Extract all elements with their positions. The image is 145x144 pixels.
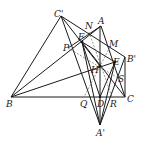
label-A: A	[97, 16, 105, 26]
label-E: E	[112, 57, 120, 67]
label-B': B'	[126, 54, 136, 64]
segment-AB	[11, 26, 101, 97]
label-S: S	[118, 74, 124, 84]
label-N: N	[84, 21, 94, 31]
segment-C'B	[11, 16, 61, 97]
label-H: H	[90, 65, 99, 75]
label-R: R	[109, 99, 117, 109]
label-D: D	[96, 99, 104, 109]
point-D	[99, 96, 101, 98]
label-Q: Q	[80, 99, 88, 109]
label-C: C	[127, 94, 134, 104]
solid-lines	[11, 16, 125, 125]
label-F: F	[77, 32, 85, 42]
label-A': A'	[95, 128, 105, 138]
point-H	[98, 64, 101, 67]
geometry-diagram: C' A N F M P B' E H S B Q D R C A'	[0, 0, 145, 144]
label-P: P	[62, 43, 70, 53]
label-M: M	[108, 39, 119, 49]
segment-C'B'	[61, 16, 125, 57]
label-C': C'	[54, 9, 63, 19]
label-B: B	[5, 99, 13, 109]
